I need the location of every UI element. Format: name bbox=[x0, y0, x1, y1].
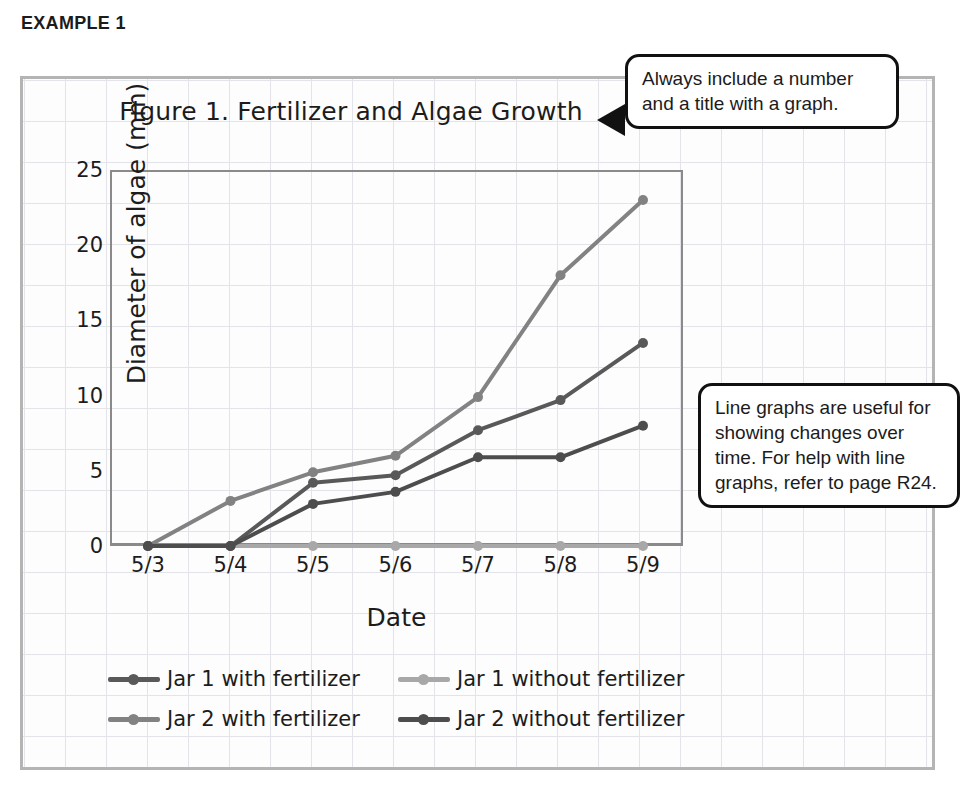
legend-swatch-icon bbox=[108, 672, 160, 686]
x-tick-label: 5/6 bbox=[361, 553, 431, 577]
data-point bbox=[226, 541, 236, 551]
series-jar-1-with-fertilizer bbox=[143, 338, 648, 551]
plot-area bbox=[110, 170, 683, 550]
legend-label: Jar 2 with fertilizer bbox=[167, 707, 360, 731]
y-tick-label: 15 bbox=[63, 308, 103, 332]
data-point bbox=[473, 392, 483, 402]
x-tick-label: 5/9 bbox=[608, 553, 678, 577]
legend-label: Jar 1 without fertilizer bbox=[457, 667, 684, 691]
legend-label: Jar 1 with fertilizer bbox=[167, 667, 360, 691]
legend-item-jar-1-with-fertilizer: Jar 1 with fertilizer bbox=[108, 667, 398, 691]
legend-swatch-icon bbox=[398, 672, 450, 686]
legend-label: Jar 2 without fertilizer bbox=[457, 707, 684, 731]
x-tick-label: 5/7 bbox=[443, 553, 513, 577]
chart-title: Figure 1. Fertilizer and Algae Growth bbox=[71, 97, 631, 126]
data-point bbox=[638, 338, 648, 348]
data-point bbox=[391, 487, 401, 497]
data-point bbox=[473, 452, 483, 462]
y-tick-label: 20 bbox=[63, 233, 103, 257]
data-point bbox=[473, 541, 483, 551]
x-tick-label: 5/8 bbox=[526, 553, 596, 577]
legend-swatch-icon bbox=[108, 712, 160, 726]
x-tick-label: 5/3 bbox=[113, 553, 183, 577]
series-jar-2-without-fertilizer bbox=[143, 421, 648, 551]
y-tick-label: 5 bbox=[63, 459, 103, 483]
example-heading: EXAMPLE 1 bbox=[21, 13, 126, 34]
data-point bbox=[638, 195, 648, 205]
data-point bbox=[308, 541, 318, 551]
data-point bbox=[391, 451, 401, 461]
data-point bbox=[226, 496, 236, 506]
callout-line-graph-usage: Line graphs are useful for showing chang… bbox=[698, 383, 960, 508]
callout-title-advice: Always include a number and a title with… bbox=[625, 54, 899, 129]
data-point bbox=[473, 425, 483, 435]
legend-item-jar-2-with-fertilizer: Jar 2 with fertilizer bbox=[108, 707, 398, 731]
data-point bbox=[308, 478, 318, 488]
data-point bbox=[391, 470, 401, 480]
legend-swatch-icon bbox=[398, 712, 450, 726]
data-point bbox=[556, 452, 566, 462]
data-point bbox=[391, 541, 401, 551]
callout-arrow-title bbox=[597, 104, 625, 136]
chart-legend: Jar 1 with fertilizerJar 1 without ferti… bbox=[108, 659, 718, 739]
plot-lines bbox=[110, 170, 683, 550]
x-axis-tick-labels: 5/35/45/55/65/75/85/9 bbox=[110, 553, 683, 587]
data-point bbox=[638, 541, 648, 551]
data-point bbox=[556, 541, 566, 551]
y-tick-label: 25 bbox=[63, 158, 103, 182]
legend-item-jar-2-without-fertilizer: Jar 2 without fertilizer bbox=[398, 707, 684, 731]
data-point bbox=[143, 541, 153, 551]
x-tick-label: 5/4 bbox=[196, 553, 266, 577]
data-point bbox=[556, 395, 566, 405]
y-tick-label: 0 bbox=[63, 534, 103, 558]
legend-row: Jar 2 with fertilizerJar 2 without ferti… bbox=[108, 699, 718, 739]
y-axis-title: Diameter of algae (mm) bbox=[122, 76, 151, 399]
legend-row: Jar 1 with fertilizerJar 1 without ferti… bbox=[108, 659, 718, 699]
series-jar-2-with-fertilizer bbox=[143, 195, 648, 551]
y-tick-label: 10 bbox=[63, 384, 103, 408]
x-tick-label: 5/5 bbox=[278, 553, 348, 577]
y-axis-tick-labels: 0510152025 bbox=[53, 170, 103, 546]
data-point bbox=[556, 270, 566, 280]
data-point bbox=[308, 499, 318, 509]
x-axis-title: Date bbox=[110, 603, 683, 632]
data-point bbox=[638, 421, 648, 431]
legend-item-jar-1-without-fertilizer: Jar 1 without fertilizer bbox=[398, 667, 684, 691]
data-point bbox=[308, 467, 318, 477]
